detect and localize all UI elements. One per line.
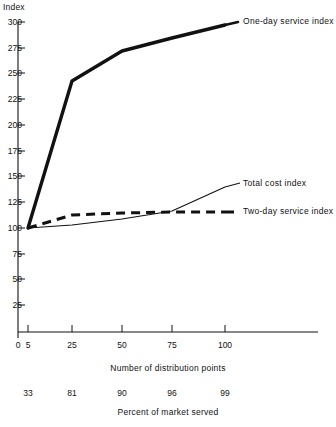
pct-tick-label-96: 96: [159, 388, 185, 398]
pct-tick-label-33: 33: [15, 388, 41, 398]
series-label-two-day-service-index: Two-day service index: [243, 206, 333, 216]
series-line-total-cost-index: [28, 187, 225, 228]
chart-container: Index 300 275 250 225 200 175 150 125 10…: [0, 0, 336, 427]
series-leader-one-day-service-index: [225, 22, 238, 25]
x-tick-label-100: 100: [212, 340, 238, 350]
series-label-one-day-service-index: One-day service index: [243, 16, 334, 26]
pct-tick-label-99: 99: [212, 388, 238, 398]
pct-tick-label-90: 90: [109, 388, 135, 398]
x-tick-label-5: 5: [15, 340, 41, 350]
series-label-total-cost-index: Total cost index: [243, 178, 306, 188]
pct-axis-caption: Percent of market served: [0, 407, 336, 417]
x-axis-caption: Number of distribution points: [0, 363, 336, 373]
series-line-one-day-service-index: [28, 25, 225, 228]
series-leader-total-cost-index: [225, 183, 240, 187]
x-tick-label-25: 25: [59, 340, 85, 350]
y-tick-marks: [18, 22, 25, 305]
x-tick-label-75: 75: [159, 340, 185, 350]
x-tick-label-50: 50: [109, 340, 135, 350]
x-tick-marks: [28, 325, 225, 332]
pct-tick-label-81: 81: [59, 388, 85, 398]
